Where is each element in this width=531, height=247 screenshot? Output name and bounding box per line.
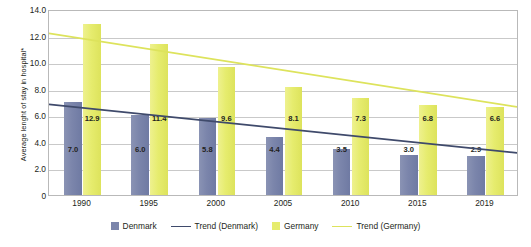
x-axis-tick-label: 2000 — [186, 198, 246, 208]
bar-value-label: 12.9 — [77, 114, 107, 123]
x-axis-tick-label: 1995 — [119, 198, 179, 208]
legend-label: Trend (Denmark) — [195, 221, 258, 231]
y-axis-tick-labels: 02.04.06.08.010.012.014.0 — [14, 10, 46, 196]
bar — [285, 87, 303, 195]
bar — [467, 156, 485, 195]
legend-item[interactable]: Trend (Germany) — [332, 221, 420, 231]
legend-swatch-icon — [272, 222, 280, 230]
plot-area: 7.012.96.011.45.89.64.48.13.57.33.06.82.… — [48, 10, 518, 196]
y-axis-tick-label: 14.0 — [14, 5, 46, 15]
x-axis-tick-label: 2019 — [454, 198, 514, 208]
y-axis-tick-label: 0 — [14, 191, 46, 201]
y-axis-tick-label: 4.0 — [14, 138, 46, 148]
legend-item[interactable]: Trend (Denmark) — [171, 221, 258, 231]
bars-layer: 7.012.96.011.45.89.64.48.13.57.33.06.82.… — [49, 11, 517, 195]
x-axis-tick-label: 2015 — [387, 198, 447, 208]
y-axis-tick-label: 6.0 — [14, 111, 46, 121]
y-axis-tick-label: 10.0 — [14, 58, 46, 68]
bar-value-label: 11.4 — [144, 114, 174, 123]
legend-label: Germany — [284, 221, 318, 231]
bar — [199, 118, 217, 195]
x-axis-tick-labels: 1990199520002005201020152019 — [48, 198, 518, 212]
bar — [131, 115, 149, 195]
bar — [352, 98, 370, 195]
y-axis-tick-label: 2.0 — [14, 164, 46, 174]
legend-item[interactable]: Germany — [272, 221, 318, 231]
legend-line-icon — [332, 226, 352, 227]
chart-legend: DenmarkTrend (Denmark)GermanyTrend (Germ… — [0, 221, 531, 231]
x-axis-tick-label: 2005 — [253, 198, 313, 208]
legend-line-icon — [171, 226, 191, 227]
x-axis-tick-label: 1990 — [52, 198, 112, 208]
legend-label: Denmark — [123, 221, 157, 231]
bar-value-label: 6.6 — [480, 114, 510, 123]
legend-swatch-icon — [111, 222, 119, 230]
legend-item[interactable]: Denmark — [111, 221, 157, 231]
chart-container: Average lenght of stay in hospital* 02.0… — [0, 0, 531, 247]
bar-value-label: 9.6 — [211, 114, 241, 123]
bar-value-label: 6.8 — [413, 114, 443, 123]
y-axis-tick-label: 12.0 — [14, 32, 46, 42]
x-axis-tick-label: 2010 — [320, 198, 380, 208]
bar — [333, 149, 351, 196]
y-axis-tick-label: 8.0 — [14, 85, 46, 95]
bar-value-label: 7.3 — [346, 114, 376, 123]
bar-value-label: 8.1 — [279, 114, 309, 123]
legend-label: Trend (Germany) — [356, 221, 420, 231]
bar — [83, 24, 101, 195]
bar — [400, 155, 418, 195]
bar — [218, 67, 236, 195]
